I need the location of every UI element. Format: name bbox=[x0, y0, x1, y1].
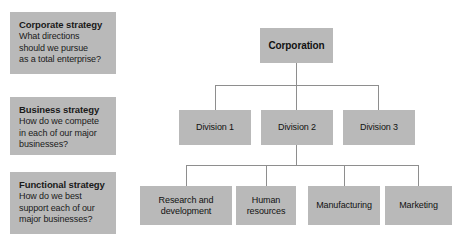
panel-corporate-strategy-line-3: as a total enterprise? bbox=[19, 54, 107, 66]
connector-drop-marketing bbox=[418, 165, 419, 186]
connector-drop-division-1 bbox=[215, 85, 216, 110]
panel-corporate-strategy: Corporate strategy What directions shoul… bbox=[10, 12, 116, 74]
panel-business-strategy-title: Business strategy bbox=[19, 104, 107, 116]
panel-corporate-strategy-title: Corporate strategy bbox=[19, 19, 107, 31]
node-manufacturing: Manufacturing bbox=[308, 186, 380, 225]
panel-functional-strategy-title: Functional strategy bbox=[19, 179, 107, 191]
panel-corporate-strategy-line-2: should we pursue bbox=[19, 43, 107, 55]
panel-corporate-strategy-line-1: What directions bbox=[19, 31, 107, 43]
panel-business-strategy-line-1: How do we compete bbox=[19, 116, 107, 128]
strategy-hierarchy-diagram: Corporate strategy What directions shoul… bbox=[0, 0, 464, 240]
connector-drop-division-2 bbox=[296, 85, 297, 110]
node-marketing: Marketing bbox=[385, 186, 452, 225]
node-division-3: Division 3 bbox=[343, 110, 415, 145]
panel-functional-strategy-body: How do we best support each of our major… bbox=[19, 191, 107, 226]
panel-functional-strategy-line-1: How do we best bbox=[19, 191, 107, 203]
panel-corporate-strategy-body: What directions should we pursue as a to… bbox=[19, 31, 107, 66]
panel-functional-strategy-line-3: major businesses? bbox=[19, 214, 107, 226]
panel-functional-strategy-line-2: support each of our bbox=[19, 203, 107, 215]
panel-business-strategy: Business strategy How do we compete in e… bbox=[10, 97, 116, 155]
connector-drop-research-development bbox=[186, 165, 187, 186]
node-corporation: Corporation bbox=[260, 28, 333, 63]
node-division-1: Division 1 bbox=[179, 110, 251, 145]
panel-business-strategy-line-2: in each of our major bbox=[19, 128, 107, 140]
connector-functional-bar bbox=[186, 165, 419, 166]
connector-drop-human-resources bbox=[266, 165, 267, 186]
connector-drop-division-3 bbox=[378, 85, 379, 110]
connector-corporation-stem bbox=[296, 63, 297, 85]
node-human-resources: Human resources bbox=[236, 186, 296, 225]
panel-business-strategy-body: How do we compete in each of our major b… bbox=[19, 116, 107, 151]
panel-functional-strategy: Functional strategy How do we best suppo… bbox=[10, 172, 116, 234]
panel-business-strategy-line-3: businesses? bbox=[19, 139, 107, 151]
connector-drop-manufacturing bbox=[344, 165, 345, 186]
node-division-2: Division 2 bbox=[261, 110, 333, 145]
node-research-and-development: Research and development bbox=[140, 186, 232, 225]
connector-division-2-stem bbox=[296, 145, 297, 165]
